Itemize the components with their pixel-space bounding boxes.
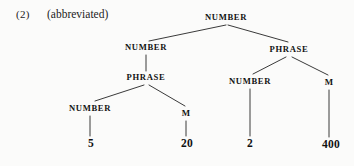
tree-node-level3-number: NUMBER bbox=[229, 76, 271, 86]
tree-node-level3-phrase: PHRASE bbox=[127, 72, 166, 82]
edge-root-to-left-number bbox=[149, 25, 226, 41]
tree-leaf-400: 400 bbox=[322, 138, 340, 150]
edge-root-to-right-phrase bbox=[228, 25, 288, 42]
syntax-tree-figure: (2) (abbreviated) bbox=[0, 0, 354, 166]
tree-leaf-5: 5 bbox=[88, 137, 94, 149]
edge-right-phrase-to-number bbox=[253, 57, 286, 74]
edge-right-phrase-to-m bbox=[292, 57, 328, 75]
tree-node-level2-phrase: PHRASE bbox=[270, 44, 309, 54]
tree-edges bbox=[0, 0, 354, 166]
tree-diagram: NUMBER NUMBER PHRASE PHRASE NUMBER M NUM… bbox=[0, 0, 354, 166]
edge-phrase-to-m bbox=[149, 85, 185, 106]
tree-leaf-2: 2 bbox=[247, 137, 253, 149]
tree-node-level2-number: NUMBER bbox=[125, 42, 167, 52]
tree-leaf-20: 20 bbox=[181, 137, 193, 149]
tree-node-level3-m: M bbox=[325, 77, 334, 87]
tree-node-level4-m: M bbox=[182, 108, 191, 118]
edge-phrase-to-number bbox=[95, 85, 144, 101]
tree-node-root-number: NUMBER bbox=[205, 12, 247, 22]
tree-node-level4-number: NUMBER bbox=[69, 103, 111, 113]
